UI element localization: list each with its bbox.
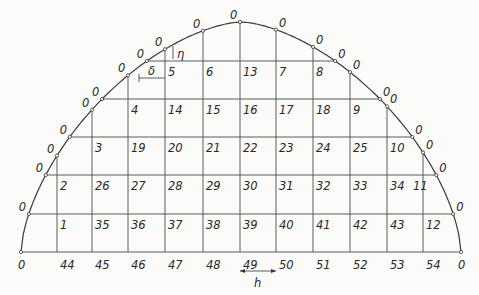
node-number-label: 1 <box>60 218 67 232</box>
eta-label: η <box>177 47 184 61</box>
boundary-value-label: 0 <box>458 258 465 272</box>
node-number-label: 16 <box>243 103 258 117</box>
boundary-value-label: 0 <box>353 58 360 72</box>
node-number-label: 6 <box>206 65 213 79</box>
boundary-node <box>68 135 71 138</box>
boundary-value-label: 0 <box>47 142 54 156</box>
boundary-value-label: 0 <box>18 258 25 272</box>
boundary-node <box>44 173 47 176</box>
node-number-label: 38 <box>206 218 221 232</box>
node-number-label: 21 <box>206 141 221 155</box>
node-number-label: 40 <box>279 218 294 232</box>
node-number-label: 41 <box>316 218 331 232</box>
boundary-node <box>311 45 314 48</box>
boundary-node <box>411 135 414 138</box>
boundary-value-label: 0 <box>316 33 323 47</box>
node-number-label: 17 <box>279 103 294 117</box>
node-number-label: 10 <box>390 141 405 155</box>
node-number-label: 12 <box>426 218 441 232</box>
node-number-label: 26 <box>95 179 110 193</box>
node-number-label: 2 <box>60 179 67 193</box>
node-number-label: 15 <box>206 103 221 117</box>
boundary-value-label: 0 <box>92 85 99 99</box>
node-number-label: 42 <box>353 218 368 232</box>
boundary-node <box>385 105 388 108</box>
boundary-node <box>163 48 166 51</box>
boundary-value-label: 0 <box>426 138 433 152</box>
boundary-value-label: 0 <box>155 35 162 49</box>
boundary-node <box>435 173 438 176</box>
delta-label: δ <box>148 64 155 78</box>
node-number-label: 52 <box>353 258 368 272</box>
boundary-node <box>201 29 204 32</box>
node-number-label: 7 <box>279 65 287 79</box>
node-number-label: 5 <box>168 65 175 79</box>
node-number-label: 47 <box>168 258 183 272</box>
boundary-value-label: 0 <box>439 161 446 175</box>
node-number-label: 14 <box>168 103 183 117</box>
boundary-node <box>452 212 455 215</box>
node-number-label: 30 <box>243 179 258 193</box>
node-number-label: 53 <box>390 258 405 272</box>
node-number-label: 3 <box>95 141 102 155</box>
node-number-label: 54 <box>426 258 441 272</box>
boundary-node <box>421 151 424 154</box>
boundary-value-label: 0 <box>456 200 463 214</box>
node-number-label: 22 <box>243 141 258 155</box>
node-number-label: 28 <box>168 179 183 193</box>
boundary-node <box>378 97 381 100</box>
boundary-node <box>274 28 277 31</box>
boundary-node <box>334 59 337 62</box>
boundary-node <box>348 71 351 74</box>
boundary-node <box>19 250 22 253</box>
boundary-value-label: 0 <box>60 123 67 137</box>
node-number-label: 31 <box>279 179 294 193</box>
h-label: h <box>254 276 261 290</box>
boundary-node <box>27 212 30 215</box>
boundary-value-label: 0 <box>193 17 200 31</box>
boundary-value-label: 0 <box>230 8 237 22</box>
node-number-label: 51 <box>316 258 331 272</box>
node-number-label: 11 <box>413 179 428 193</box>
boundary-value-label: 0 <box>137 47 144 61</box>
node-number-label: 20 <box>168 141 183 155</box>
node-number-label: 48 <box>206 258 221 272</box>
node-number-label: 33 <box>353 179 368 193</box>
diagram-canvas: 0000000000000000000000056137841415161718… <box>0 0 479 295</box>
node-number-label: 45 <box>95 258 110 272</box>
node-number-label: 44 <box>60 258 75 272</box>
node-number-label: 39 <box>243 218 258 232</box>
node-number-label: 23 <box>279 141 294 155</box>
node-number-label: 43 <box>390 218 405 232</box>
node-number-label: 49 <box>243 258 258 272</box>
node-number-label: 50 <box>279 258 294 272</box>
boundary-node <box>101 97 104 100</box>
node-number-label: 34 <box>390 179 405 193</box>
boundary-value-label: 0 <box>82 96 89 110</box>
node-number-label: 24 <box>316 141 331 155</box>
boundary-value-label: 0 <box>415 123 422 137</box>
node-number-label: 13 <box>243 65 258 79</box>
boundary-value-label: 0 <box>118 61 125 75</box>
boundary-node <box>238 20 241 23</box>
node-number-label: 32 <box>316 179 331 193</box>
node-number-label: 18 <box>316 103 331 117</box>
boundary-node <box>145 59 148 62</box>
node-number-label: 36 <box>131 218 146 232</box>
boundary-value-label: 0 <box>279 16 286 30</box>
node-number-label: 9 <box>353 103 360 117</box>
node-number-label: 25 <box>353 141 368 155</box>
node-number-label: 8 <box>316 65 323 79</box>
node-number-label: 29 <box>206 179 221 193</box>
boundary-value-label: 0 <box>19 200 26 214</box>
boundary-node <box>90 108 93 111</box>
boundary-node <box>55 154 58 157</box>
node-number-label: 27 <box>131 179 146 193</box>
boundary-value-label: 0 <box>338 47 345 61</box>
boundary-node <box>126 74 129 77</box>
node-number-label: 37 <box>168 218 183 232</box>
node-number-label: 19 <box>131 141 146 155</box>
grid-diagram: 0000000000000000000000056137841415161718… <box>0 0 479 295</box>
node-number-label: 35 <box>95 218 110 232</box>
boundary-value-label: 0 <box>390 92 397 106</box>
